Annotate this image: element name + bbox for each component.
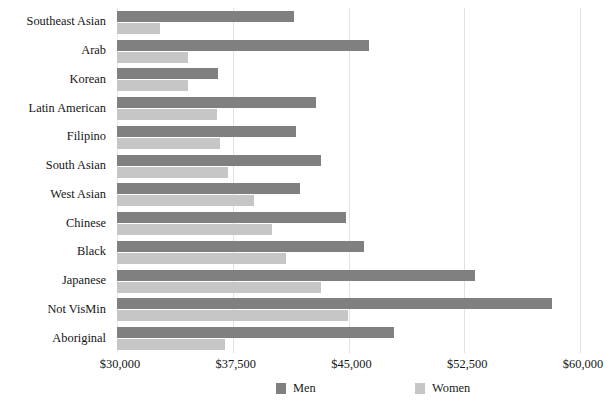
- x-tick-label-30000: $30,000: [100, 357, 140, 371]
- bar-latin-american-women: [117, 109, 217, 120]
- bar-southeast-asian-women: [117, 23, 160, 34]
- x-axis-tick-labels: $30,000$37,500$45,000$52,500$60,000: [0, 357, 612, 375]
- bar-korean-women: [117, 80, 188, 91]
- chart-legend: MenWomen: [0, 381, 612, 401]
- y-axis-label-korean: Korean: [0, 73, 106, 86]
- y-axis-label-aboriginal: Aboriginal: [0, 332, 106, 345]
- men-swatch-icon: [276, 383, 286, 394]
- bar-aboriginal-women: [117, 339, 225, 350]
- bar-latin-american-men: [117, 97, 316, 108]
- y-axis-label-south-asian: South Asian: [0, 159, 106, 172]
- bar-chinese-men: [117, 212, 346, 223]
- x-tick-label-37500: $37,500: [216, 357, 256, 371]
- x-tick-label-45000: $45,000: [331, 357, 371, 371]
- legend-label: Women: [432, 381, 470, 395]
- women-swatch-icon: [415, 383, 425, 394]
- y-axis-label-latin-american: Latin American: [0, 102, 106, 115]
- y-axis-label-southeast-asian: Southeast Asian: [0, 15, 106, 28]
- bar-west-asian-men: [117, 183, 300, 194]
- bar-korean-men: [117, 68, 218, 79]
- y-axis-label-chinese: Chinese: [0, 217, 106, 230]
- y-axis-category-labels: Southeast AsianArabKoreanLatin AmericanF…: [0, 8, 112, 353]
- grouped-bar-chart: Southeast AsianArabKoreanLatin AmericanF…: [0, 0, 612, 406]
- bar-chinese-women: [117, 224, 272, 235]
- bar-west-asian-women: [117, 195, 254, 206]
- bar-black-women: [117, 253, 286, 264]
- y-axis-label-black: Black: [0, 245, 106, 258]
- x-tick-label-52500: $52,500: [447, 357, 487, 371]
- x-tick-label-60000: $60,000: [563, 357, 603, 371]
- y-axis-label-filipino: Filipino: [0, 130, 106, 143]
- y-axis-label-arab: Arab: [0, 44, 106, 57]
- bar-arab-men: [117, 40, 369, 51]
- bar-not-vismin-women: [117, 310, 348, 321]
- bar-south-asian-men: [117, 155, 321, 166]
- bar-filipino-men: [117, 126, 296, 137]
- legend-label: Men: [293, 381, 316, 395]
- bar-south-asian-women: [117, 167, 228, 178]
- y-axis-label-west-asian: West Asian: [0, 188, 106, 201]
- y-axis-label-not-vismin: Not VisMin: [0, 303, 106, 316]
- bar-black-men: [117, 241, 364, 252]
- plot-area: [117, 8, 580, 353]
- bar-japanese-women: [117, 282, 321, 293]
- bar-not-vismin-men: [117, 298, 552, 309]
- legend-item-men[interactable]: Men: [276, 381, 316, 395]
- bar-aboriginal-men: [117, 327, 394, 338]
- legend-item-women[interactable]: Women: [415, 381, 470, 395]
- bar-filipino-women: [117, 138, 220, 149]
- gridline-60000: [580, 8, 581, 353]
- bar-arab-women: [117, 52, 188, 63]
- bar-southeast-asian-men: [117, 11, 294, 22]
- bar-japanese-men: [117, 270, 475, 281]
- y-axis-label-japanese: Japanese: [0, 274, 106, 287]
